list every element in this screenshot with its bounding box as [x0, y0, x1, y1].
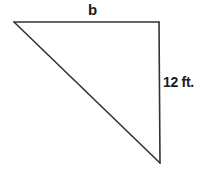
hypotenuse [14, 22, 160, 163]
right-side-label: 12 ft. [163, 75, 194, 89]
top-side-label: b [88, 2, 97, 17]
right-side-12ft [159, 22, 160, 163]
